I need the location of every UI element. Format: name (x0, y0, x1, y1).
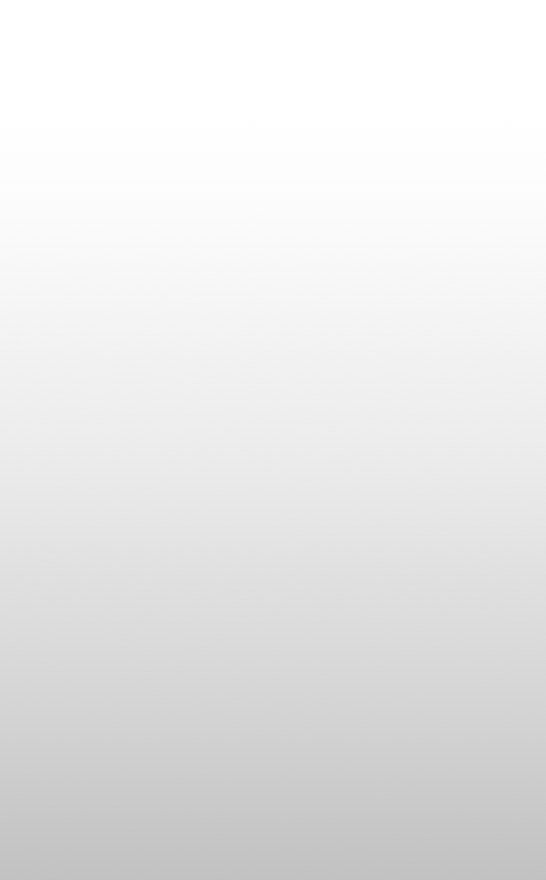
gradient-banding-artifact (0, 0, 546, 880)
screenshot-canvas: Blank surface with a smooth top-to-botto… (0, 0, 546, 880)
